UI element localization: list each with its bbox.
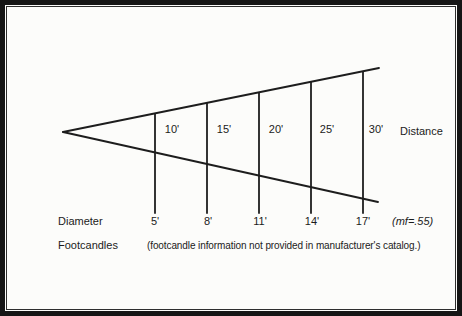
diameter-value-11ft: 11' bbox=[247, 216, 273, 227]
diameter-row-label: Diameter bbox=[58, 216, 103, 227]
diameter-value-5ft: 5' bbox=[142, 216, 168, 227]
beam-spread-diagram bbox=[0, 0, 462, 316]
distance-axis-label: Distance bbox=[400, 126, 443, 137]
multiplying-factor-note: (mf=.55) bbox=[392, 216, 433, 227]
diameter-value-8ft: 8' bbox=[195, 216, 221, 227]
beam-bottom-edge-line bbox=[63, 132, 378, 202]
distance-value-15ft: 15' bbox=[211, 124, 237, 135]
diameter-value-14ft: 14' bbox=[299, 216, 325, 227]
distance-value-30ft: 30' bbox=[363, 124, 389, 135]
diameter-value-17ft: 17' bbox=[350, 216, 376, 227]
distance-value-20ft: 20' bbox=[263, 124, 289, 135]
distance-value-10ft: 10' bbox=[159, 124, 185, 135]
distance-value-25ft: 25' bbox=[314, 124, 340, 135]
footcandles-row-label: Footcandles bbox=[58, 240, 118, 251]
footcandles-note: (footcandle information not provided in … bbox=[147, 241, 420, 251]
